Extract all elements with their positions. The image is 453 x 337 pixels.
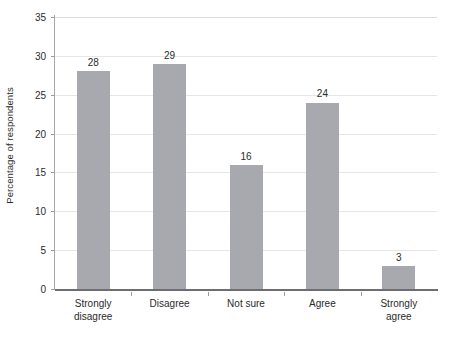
x-tick-label: Not sure (227, 298, 265, 311)
bar-value-label: 16 (240, 151, 251, 162)
bar-value-label: 24 (317, 88, 328, 99)
bar[interactable] (382, 266, 415, 289)
y-tick-label: 25 (6, 89, 46, 100)
y-tick-label: 15 (6, 167, 46, 178)
y-tick-label: 0 (6, 284, 46, 295)
bar-value-label: 28 (88, 57, 99, 68)
x-tick-mark (208, 292, 209, 296)
x-tick-label: Disagree (150, 298, 190, 311)
plot-area: 282916243 (55, 17, 437, 289)
y-axis-ticks: 05101520253035 (0, 17, 55, 289)
x-tick-mark (361, 292, 362, 296)
y-tick-label: 20 (6, 128, 46, 139)
y-tick-label: 5 (6, 245, 46, 256)
bar-value-label: 3 (396, 252, 402, 263)
x-tick-mark (131, 292, 132, 296)
gridline (55, 56, 437, 57)
bar-chart: Percentage of respondents 05101520253035… (0, 0, 453, 337)
x-axis-labels: Strongly disagreeDisagreeNot sureAgreeSt… (55, 292, 438, 337)
y-tick-label: 30 (6, 50, 46, 61)
bar[interactable] (153, 64, 186, 289)
bar[interactable] (306, 103, 339, 290)
y-axis-line (54, 15, 55, 290)
gridline (55, 17, 437, 18)
x-tick-label: Strongly disagree (74, 298, 112, 323)
bar[interactable] (77, 71, 110, 289)
y-tick-label: 35 (6, 12, 46, 23)
gridline (55, 95, 437, 96)
x-axis-line (55, 289, 438, 291)
y-tick-label: 10 (6, 206, 46, 217)
bar[interactable] (230, 165, 263, 289)
x-tick-label: Strongly agree (379, 298, 418, 323)
x-tick-label: Agree (309, 298, 336, 311)
bar-value-label: 29 (164, 50, 175, 61)
gridline (55, 134, 437, 135)
x-tick-mark (284, 292, 285, 296)
